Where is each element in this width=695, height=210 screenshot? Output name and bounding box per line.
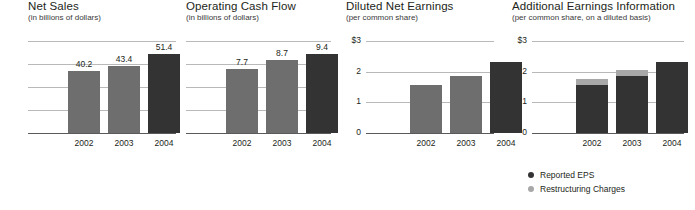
- chart-title: Diluted Net Earnings: [346, 0, 496, 12]
- bar-segment: [576, 85, 608, 133]
- legend-item: Reported EPS: [528, 168, 625, 182]
- legend-item: Restructuring Charges: [528, 182, 625, 196]
- bar-value-label: 40.2: [62, 59, 106, 69]
- bar: [306, 54, 338, 133]
- bar-value-label: 8.7: [260, 48, 304, 58]
- y-axis-tick-label: 2: [344, 66, 361, 76]
- bar: [68, 71, 100, 133]
- y-axis-tick-label: 1: [344, 96, 361, 106]
- bar: [266, 60, 298, 133]
- chart-title: Net Sales: [28, 0, 178, 12]
- bar-value-label: 51.4: [142, 42, 186, 52]
- legend-dot-icon: [528, 186, 534, 192]
- bar-segment: [616, 76, 648, 133]
- bar-value-label: 9.4: [300, 42, 344, 52]
- chart-title: Additional Earnings Information: [512, 0, 690, 12]
- gridline: [366, 72, 494, 73]
- bar: [656, 62, 688, 133]
- chart-subtitle: (per common share): [346, 13, 496, 22]
- chart-title: Operating Cash Flow: [186, 0, 336, 12]
- x-axis-tick-label: 2003: [260, 138, 304, 148]
- y-axis-tick-label: 0: [344, 127, 361, 137]
- chart-subtitle: (in billions of dollars): [186, 13, 336, 22]
- axis-baseline: [28, 133, 176, 134]
- plot-area: $3210200220032004: [366, 41, 494, 133]
- bar-value-label: 43.4: [102, 54, 146, 64]
- bar: [148, 54, 180, 133]
- legend-label: Reported EPS: [540, 170, 594, 180]
- bar: [410, 85, 442, 133]
- bar-value-label: 7.7: [220, 57, 264, 67]
- plot-area: 40.2200243.4200351.42004: [28, 41, 176, 133]
- x-axis-tick-label: 2004: [142, 138, 186, 148]
- plot-area: $3210200220032004: [532, 41, 684, 133]
- bar-segment: [656, 62, 688, 133]
- x-axis-tick-label: 2002: [404, 138, 448, 148]
- legend-dot-icon: [528, 172, 534, 178]
- y-axis-tick-label: 0: [510, 127, 527, 137]
- legend-label: Restructuring Charges: [540, 184, 625, 194]
- plot-area: 7.720028.720039.42004: [186, 41, 331, 133]
- x-axis-tick-label: 2003: [610, 138, 654, 148]
- x-axis-tick-label: 2003: [444, 138, 488, 148]
- x-axis-tick-label: 2003: [102, 138, 146, 148]
- y-axis-tick-label: $3: [344, 35, 361, 45]
- axis-baseline: [186, 133, 331, 134]
- axis-baseline: [532, 133, 684, 134]
- chart-panel-1: Net Sales(in billions of dollars)40.2200…: [28, 0, 178, 210]
- x-axis-tick-label: 2002: [62, 138, 106, 148]
- x-axis-tick-label: 2004: [300, 138, 344, 148]
- bar-segment: [576, 79, 608, 86]
- bar: [108, 66, 140, 133]
- x-axis-tick-label: 2004: [650, 138, 694, 148]
- x-axis-tick-label: 2002: [570, 138, 614, 148]
- x-axis-tick-label: 2002: [220, 138, 264, 148]
- bar: [226, 69, 258, 133]
- bar: [576, 79, 608, 133]
- bar-segment: [616, 70, 648, 77]
- y-axis-tick-label: 2: [510, 66, 527, 76]
- chart-panel-3: Diluted Net Earnings(per common share)$3…: [346, 0, 496, 210]
- chart-legend: Reported EPS Restructuring Charges: [528, 168, 625, 196]
- axis-baseline: [366, 133, 494, 134]
- y-axis-tick-label: 1: [510, 96, 527, 106]
- bar: [616, 70, 648, 133]
- gridline: [532, 41, 684, 42]
- bar: [450, 76, 482, 133]
- gridline: [366, 41, 494, 42]
- chart-subtitle: (per common share, on a diluted basis): [512, 13, 690, 22]
- chart-panel-2: Operating Cash Flow(in billions of dolla…: [186, 0, 336, 210]
- chart-subtitle: (in billions of dollars): [28, 13, 178, 22]
- y-axis-tick-label: $3: [510, 35, 527, 45]
